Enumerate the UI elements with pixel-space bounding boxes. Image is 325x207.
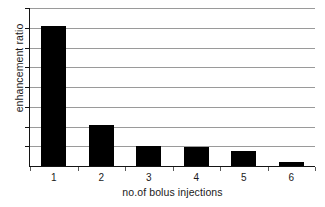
- x-tick-label: 3: [146, 172, 152, 183]
- bar: [279, 162, 304, 166]
- gridline: [30, 87, 315, 88]
- y-tick-mark: [25, 48, 30, 49]
- gridline: [30, 48, 315, 49]
- x-tick-mark: [220, 167, 221, 171]
- bar: [136, 146, 161, 166]
- bar: [184, 147, 209, 166]
- gridline: [30, 146, 315, 147]
- x-tick-mark: [315, 167, 316, 171]
- y-tick-mark: [25, 87, 30, 88]
- x-tick-label: 5: [241, 172, 247, 183]
- y-tick-mark: [25, 28, 30, 29]
- x-tick-mark: [268, 167, 269, 171]
- gridline: [30, 107, 315, 108]
- bar: [231, 151, 256, 166]
- plot-area: [30, 8, 315, 166]
- x-tick-label: 6: [288, 172, 294, 183]
- gridline: [30, 127, 315, 128]
- y-tick-mark: [25, 146, 30, 147]
- x-axis-title: no.of bolus injections: [30, 186, 315, 198]
- y-tick-mark: [25, 67, 30, 68]
- y-axis-title: enhancement ratio: [13, 0, 25, 143]
- y-tick-mark: [25, 127, 30, 128]
- gridline: [30, 8, 315, 9]
- x-tick-label: 2: [98, 172, 104, 183]
- gridline: [30, 67, 315, 68]
- y-tick-mark: [25, 8, 30, 9]
- x-tick-mark: [78, 167, 79, 171]
- gridline: [30, 28, 315, 29]
- bar: [89, 125, 114, 166]
- x-tick-label: 4: [193, 172, 199, 183]
- bar: [41, 26, 66, 166]
- x-tick-mark: [125, 167, 126, 171]
- x-tick-mark: [30, 167, 31, 171]
- y-tick-mark: [25, 107, 30, 108]
- bar-chart-figure: enhancement ratio 123456 no.of bolus inj…: [0, 0, 325, 207]
- x-tick-label: 1: [51, 172, 57, 183]
- x-tick-mark: [173, 167, 174, 171]
